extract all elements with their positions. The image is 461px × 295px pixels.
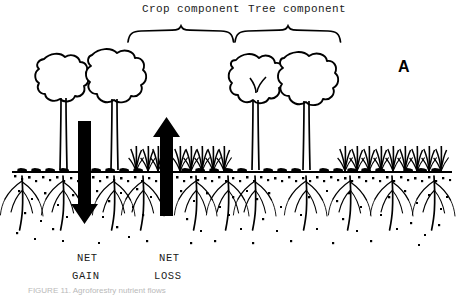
net-gain-label-line2: GAIN <box>72 270 100 282</box>
figure-caption: FIGURE 11. Agroforestry nutrient flows <box>28 286 166 295</box>
bracket-label-tree-component: Tree component <box>248 3 346 15</box>
net-gain-label-line1: NET <box>77 252 98 264</box>
net-loss-label-line1: NET <box>159 252 180 264</box>
net-loss-label-line2: LOSS <box>154 270 182 282</box>
panel-label: A <box>398 58 410 76</box>
bracket-label-crop-component: Crop component <box>142 3 240 15</box>
